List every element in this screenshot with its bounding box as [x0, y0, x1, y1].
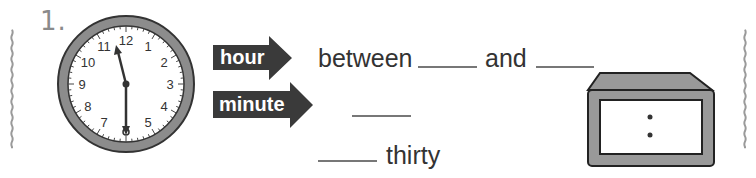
minute-blank[interactable]: [352, 115, 411, 117]
left-border: [10, 0, 14, 178]
svg-text:1: 1: [144, 39, 151, 54]
svg-text:4: 4: [160, 99, 167, 114]
svg-text:11: 11: [97, 39, 111, 54]
svg-text:10: 10: [81, 55, 95, 70]
colon-top: [648, 115, 653, 120]
time-blank[interactable]: [318, 160, 377, 162]
svg-text:8: 8: [84, 99, 91, 114]
analog-clock: 12123457891011: [55, 14, 199, 158]
minute-arrow-label: minute: [219, 94, 285, 114]
svg-text:7: 7: [100, 115, 107, 130]
thirty-text: thirty: [386, 143, 440, 168]
svg-text:9: 9: [78, 77, 85, 92]
svg-text:12: 12: [119, 33, 133, 48]
svg-text:3: 3: [166, 77, 173, 92]
colon-bottom: [648, 133, 653, 138]
right-border: [743, 0, 747, 178]
svg-text:5: 5: [144, 115, 151, 130]
svg-text:2: 2: [160, 55, 167, 70]
hour-arrow-label: hour: [220, 47, 264, 67]
between-text: between: [318, 46, 413, 71]
hour-blank-1[interactable]: [418, 66, 477, 68]
and-text: and: [485, 46, 527, 71]
digital-clock: [580, 68, 730, 172]
